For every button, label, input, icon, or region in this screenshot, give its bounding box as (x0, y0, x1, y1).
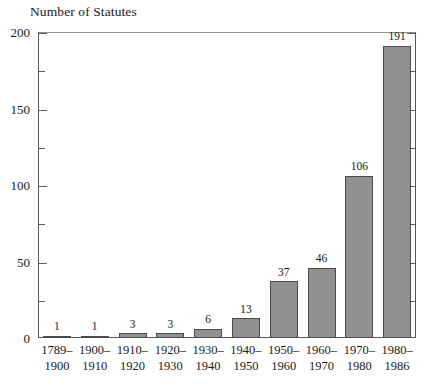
x-axis-tick-labels: 1789–19001900–19101910–19201920–19301930… (38, 342, 416, 386)
bar-group: 191 (383, 32, 411, 338)
bar (383, 46, 411, 338)
bar-group: 1 (81, 32, 109, 338)
x-tick-label: 1970–1980 (340, 342, 378, 374)
bar (119, 333, 147, 338)
bar-group: 37 (270, 32, 298, 338)
y-axis-title: Number of Statutes (30, 4, 137, 20)
bar-chart: Number of Statutes 050100150200 11336133… (0, 0, 428, 387)
bar-value-label: 3 (119, 319, 147, 331)
y-tick-label-100: 100 (11, 179, 31, 192)
y-tick-label-50: 50 (17, 255, 30, 268)
bar (270, 281, 298, 338)
x-tick-label: 1789–1900 (38, 342, 76, 374)
bar (194, 329, 222, 338)
bar-group: 3 (119, 32, 147, 338)
bar (308, 268, 336, 338)
x-tick-label: 1920–1930 (151, 342, 189, 374)
bar-value-label: 191 (383, 31, 411, 43)
bar-series: 11336133746106191 (38, 32, 416, 338)
x-tick-label: 1960–1970 (303, 342, 341, 374)
x-tick-label: 1980–1986 (378, 342, 416, 374)
bar-group: 6 (194, 32, 222, 338)
bar (156, 333, 184, 338)
bar-value-label: 1 (81, 321, 109, 333)
x-tick-label: 1950–1960 (265, 342, 303, 374)
bar-value-label: 46 (308, 253, 336, 265)
y-tick-label-200: 200 (11, 26, 31, 39)
bar-value-label: 13 (232, 304, 260, 316)
bar-value-label: 37 (270, 267, 298, 279)
bar-group: 1 (43, 32, 71, 338)
bar-value-label: 1 (43, 321, 71, 333)
x-tick-label: 1930–1940 (189, 342, 227, 374)
x-tick-label: 1900–1910 (76, 342, 114, 374)
y-tick-label-0: 0 (24, 332, 31, 345)
bar-value-label: 3 (156, 319, 184, 331)
bar-value-label: 6 (194, 314, 222, 326)
bar (345, 176, 373, 338)
bar (81, 336, 109, 339)
bar-group: 46 (308, 32, 336, 338)
bar (232, 318, 260, 338)
y-axis-tick-labels: 050100150200 (0, 32, 34, 338)
bar (43, 336, 71, 339)
bar-group: 3 (156, 32, 184, 338)
y-tick-label-150: 150 (11, 102, 31, 115)
bar-group: 106 (345, 32, 373, 338)
bar-group: 13 (232, 32, 260, 338)
bar-value-label: 106 (345, 161, 373, 173)
x-tick-label: 1910–1920 (114, 342, 152, 374)
x-tick-label: 1940–1950 (227, 342, 265, 374)
